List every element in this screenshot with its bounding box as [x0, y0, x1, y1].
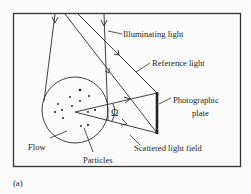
illuminating-light-beam: [44, 14, 108, 120]
label-particles: Particles: [83, 155, 113, 165]
label-photographic-plate-line1: Photographic: [173, 95, 219, 105]
arrow-icon: [52, 17, 58, 23]
flow-region: [42, 77, 108, 143]
label-scattered-light-field: Scattered light field: [134, 143, 202, 153]
label-reference-light: Reference light: [152, 58, 205, 68]
panel-label: (a): [13, 178, 23, 188]
label-omega: Ω: [111, 107, 118, 118]
leader-lines: [50, 31, 171, 152]
holography-setup-diagram: Illuminating light Reference light Photo…: [0, 0, 251, 194]
label-illuminating-light: Illuminating light: [123, 29, 184, 39]
label-photographic-plate-line2: plate: [192, 108, 209, 118]
particles: [54, 89, 96, 127]
label-flow: Flow: [28, 142, 46, 152]
